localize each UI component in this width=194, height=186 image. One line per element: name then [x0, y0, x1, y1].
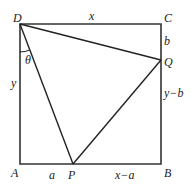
label-bottom-x-minus-a: x−a	[114, 168, 134, 182]
square-diagram: D C B A P Q x y b y−b a x−a θ	[0, 0, 194, 186]
segment-dq	[20, 24, 161, 60]
label-right-b: b	[164, 34, 170, 48]
label-left-y: y	[10, 76, 17, 90]
segment-pq	[73, 60, 161, 164]
segment-dp	[20, 24, 73, 164]
label-bottom-a: a	[49, 168, 55, 182]
label-p: P	[67, 168, 76, 182]
label-right-y-minus-b: y−b	[163, 86, 183, 100]
angle-theta-arc	[20, 50, 30, 52]
label-d: D	[12, 11, 22, 25]
label-q: Q	[164, 55, 173, 69]
label-a: A	[10, 166, 19, 180]
label-b: B	[164, 166, 172, 180]
label-theta: θ	[25, 53, 31, 67]
label-c: C	[164, 11, 173, 25]
label-top-x: x	[88, 9, 95, 23]
